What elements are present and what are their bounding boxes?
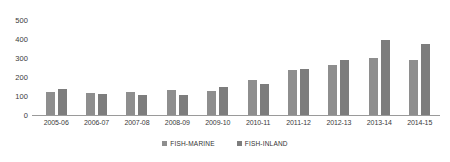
y-axis-tick: 0: [24, 111, 28, 120]
bar-inland: [179, 95, 188, 115]
bar-group: [279, 20, 319, 115]
bar-marine: [46, 92, 55, 115]
x-axis-tick: 2011-12: [279, 117, 319, 133]
legend-label: FISH-MARINE: [170, 140, 214, 147]
bar-marine: [409, 60, 418, 115]
bar-group: [77, 20, 117, 115]
bar-inland: [260, 84, 269, 115]
bar-inland: [340, 60, 349, 115]
y-axis: 0 100 200 300 400 500: [0, 0, 32, 162]
x-axis-tick: 2005-06: [36, 117, 76, 133]
bar-group: [117, 20, 157, 115]
legend-label: FISH-INLAND: [245, 140, 288, 147]
bar-marine: [207, 91, 216, 115]
bar-marine: [126, 92, 135, 115]
x-axis-tick: 2010-11: [238, 117, 278, 133]
y-axis-tick: 100: [15, 92, 28, 101]
bar-chart: 0 100 200 300 400 500: [0, 0, 450, 162]
x-axis-tick: 2008-09: [157, 117, 197, 133]
bar-inland: [421, 44, 430, 115]
bar-group: [400, 20, 440, 115]
bar-inland: [58, 89, 67, 115]
bar-group: [359, 20, 399, 115]
x-axis-tick: 2013-14: [359, 117, 399, 133]
chart-legend: FISH-MARINE FISH-INLAND: [0, 140, 450, 147]
bar-inland: [98, 94, 107, 115]
bar-marine: [86, 93, 95, 115]
bar-group: [319, 20, 359, 115]
bar-inland: [219, 87, 228, 116]
inland-swatch-icon: [237, 141, 242, 146]
bar-marine: [328, 65, 337, 115]
bar-marine: [288, 70, 297, 115]
x-axis-tick: 2006-07: [77, 117, 117, 133]
bar-inland: [300, 69, 309, 115]
bar-inland: [381, 40, 390, 115]
marine-swatch-icon: [162, 141, 167, 146]
bar-marine: [369, 58, 378, 115]
y-axis-tick: 500: [15, 16, 28, 25]
bar-group: [198, 20, 238, 115]
bar-group: [36, 20, 76, 115]
y-axis-tick: 300: [15, 54, 28, 63]
x-axis-line: [32, 115, 440, 116]
y-axis-tick: 400: [15, 35, 28, 44]
plot-area: [36, 20, 440, 115]
y-axis-tick: 200: [15, 73, 28, 82]
bar-group: [238, 20, 278, 115]
legend-item-fish-inland[interactable]: FISH-INLAND: [237, 140, 288, 147]
bar-inland: [138, 95, 147, 115]
x-axis-tick: 2007-08: [117, 117, 157, 133]
legend-item-fish-marine[interactable]: FISH-MARINE: [162, 140, 214, 147]
x-axis-tick: 2012-13: [319, 117, 359, 133]
x-axis-tick: 2014-15: [400, 117, 440, 133]
x-axis: 2005-06 2006-07 2007-08 2008-09 2009-10 …: [36, 117, 440, 133]
x-axis-tick: 2009-10: [198, 117, 238, 133]
bar-marine: [167, 90, 176, 115]
bar-group: [157, 20, 197, 115]
bar-marine: [248, 80, 257, 115]
